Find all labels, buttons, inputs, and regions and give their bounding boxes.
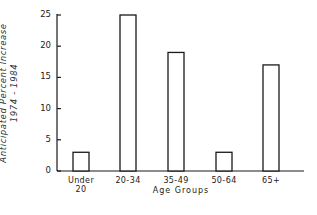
bar-under-20 (73, 152, 89, 171)
x-category-label: 65+ (251, 176, 291, 185)
x-category-label: 20-34 (108, 176, 148, 185)
bar-35-49 (168, 52, 184, 171)
y-tick-label: 20 (35, 40, 51, 50)
bar-50-64 (216, 152, 232, 171)
bar-65- (263, 65, 279, 171)
bar-20-34 (120, 15, 136, 171)
y-tick-label: 10 (35, 103, 51, 113)
bar-chart: Anticipated Percent Increase 1974 - 1984… (0, 0, 317, 215)
x-category-label: Under20 (61, 176, 101, 194)
x-axis-label-text: Age Groups (153, 186, 210, 195)
y-tick-label: 15 (35, 71, 51, 81)
y-tick-label: 25 (35, 9, 51, 19)
x-category-label: 35-49 (156, 176, 196, 185)
x-category-label: 50-64 (204, 176, 244, 185)
y-tick-label: 5 (35, 134, 51, 144)
y-tick-label: 0 (35, 165, 51, 175)
